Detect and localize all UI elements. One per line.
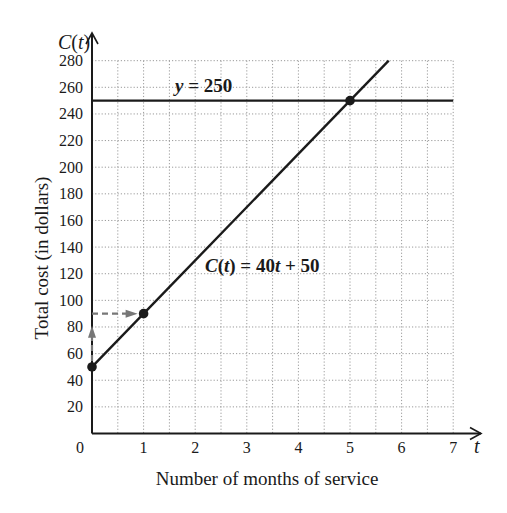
y-tick-label: 80 (67, 318, 83, 335)
x-tick-label: 4 (294, 439, 302, 456)
x-tick-label: 0 (76, 439, 84, 456)
x-tick-label: 1 (140, 439, 148, 456)
y-tick-label: 220 (59, 132, 83, 149)
y-tick-label: 240 (59, 105, 83, 122)
cost-chart: 0123456720406080100120140160180200220240… (0, 0, 507, 513)
y-tick-label: 40 (67, 372, 83, 389)
x-axis-symbol: t (474, 435, 480, 457)
axes (86, 33, 481, 440)
x-tick-label: 5 (346, 439, 354, 456)
grid-lines (92, 61, 453, 434)
x-tick-label: 6 (398, 439, 406, 456)
y-tick-label: 20 (67, 398, 83, 415)
x-tick-label: 7 (449, 439, 457, 456)
y-tick-label: 280 (59, 52, 83, 69)
x-tick-label: 2 (191, 439, 199, 456)
horizontal-line-equation: y = 250 (173, 75, 232, 96)
cost-function-line (92, 61, 389, 367)
cost-line-equation: C(t) = 40t + 50 (205, 255, 320, 277)
y-tick-label: 200 (59, 159, 83, 176)
y-tick-label: 160 (59, 212, 83, 229)
y-tick-label: 140 (59, 239, 83, 256)
data-point (139, 309, 149, 319)
y-axis-symbol: C(t) (58, 31, 90, 54)
x-tick-label: 3 (243, 439, 251, 456)
data-point (87, 362, 97, 372)
data-point (345, 96, 355, 106)
series-lines (87, 61, 453, 372)
y-tick-label: 120 (59, 265, 83, 282)
y-tick-label: 260 (59, 79, 83, 96)
x-axis-label: Number of months of service (156, 468, 379, 489)
y-tick-label: 180 (59, 185, 83, 202)
y-tick-label: 60 (67, 345, 83, 362)
y-tick-label: 100 (59, 292, 83, 309)
arrowhead-right-icon (126, 310, 138, 318)
arrowhead-up-icon (88, 326, 96, 338)
y-axis-label: Total cost (in dollars) (31, 177, 53, 340)
